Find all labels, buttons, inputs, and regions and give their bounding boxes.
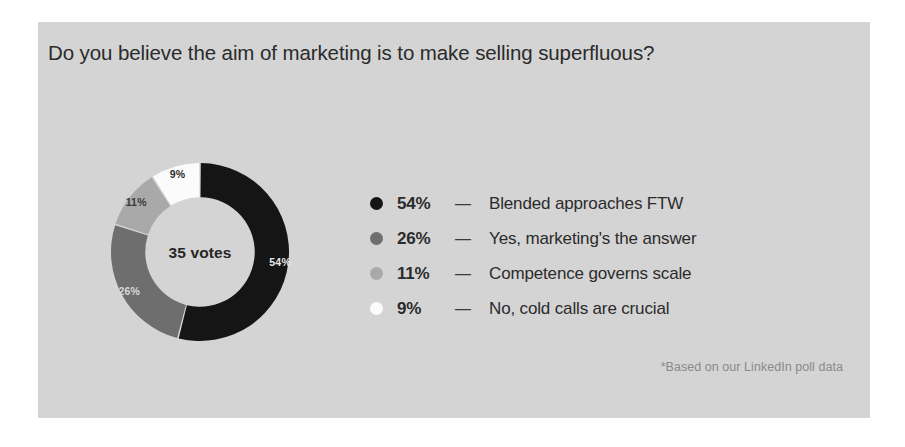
legend-dash: — xyxy=(455,195,489,213)
donut-slice xyxy=(111,225,186,338)
legend-label: Competence governs scale xyxy=(489,264,840,284)
legend-label: Yes, marketing's the answer xyxy=(489,229,840,249)
donut-slice-value-label: 26% xyxy=(118,285,140,297)
legend-dash: — xyxy=(455,300,489,318)
legend-label: No, cold calls are crucial xyxy=(489,299,840,319)
legend-color-swatch-icon xyxy=(370,232,383,245)
donut-chart-svg: 54%26%11%9% xyxy=(74,130,326,376)
legend-label: Blended approaches FTW xyxy=(489,194,840,214)
legend-color-swatch-icon xyxy=(370,267,383,280)
legend-color-swatch-icon xyxy=(370,302,383,315)
legend-percent: 54% xyxy=(397,194,455,214)
legend-item: 9%—No, cold calls are crucial xyxy=(370,291,840,326)
footnote: *Based on our LinkedIn poll data xyxy=(661,360,843,374)
page-title: Do you believe the aim of marketing is t… xyxy=(48,40,788,66)
legend-dash: — xyxy=(455,265,489,283)
legend-percent: 11% xyxy=(397,264,455,284)
donut-slice-value-label: 9% xyxy=(170,168,186,180)
legend-percent: 26% xyxy=(397,229,455,249)
donut-slice-value-label: 11% xyxy=(126,196,147,208)
legend-item: 11%—Competence governs scale xyxy=(370,256,840,291)
chart-legend: 54%—Blended approaches FTW26%—Yes, marke… xyxy=(370,186,840,326)
legend-color-swatch-icon xyxy=(370,197,383,210)
legend-percent: 9% xyxy=(397,299,455,319)
poll-infographic: Do you believe the aim of marketing is t… xyxy=(0,0,905,447)
legend-dash: — xyxy=(455,230,489,248)
donut-chart: 54%26%11%9% 35 votes xyxy=(74,130,326,376)
donut-slice-value-label: 54% xyxy=(269,256,291,268)
legend-item: 54%—Blended approaches FTW xyxy=(370,186,840,221)
legend-item: 26%—Yes, marketing's the answer xyxy=(370,221,840,256)
